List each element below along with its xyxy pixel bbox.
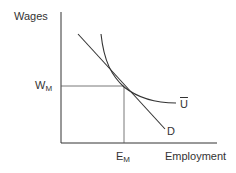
wage-label-main: W	[35, 79, 45, 91]
demand-curve-label: D	[167, 126, 175, 137]
wage-label: WM	[35, 80, 52, 91]
x-axis-label: Employment	[165, 151, 226, 162]
y-axis-label: Wages	[14, 11, 48, 22]
utility-curve	[101, 34, 176, 103]
employment-label-sub: M	[123, 155, 130, 164]
utility-curve-label: U	[180, 99, 188, 110]
demand-line	[78, 34, 165, 129]
employment-marker-label: EM	[116, 151, 130, 162]
wage-label-sub: M	[45, 84, 52, 93]
